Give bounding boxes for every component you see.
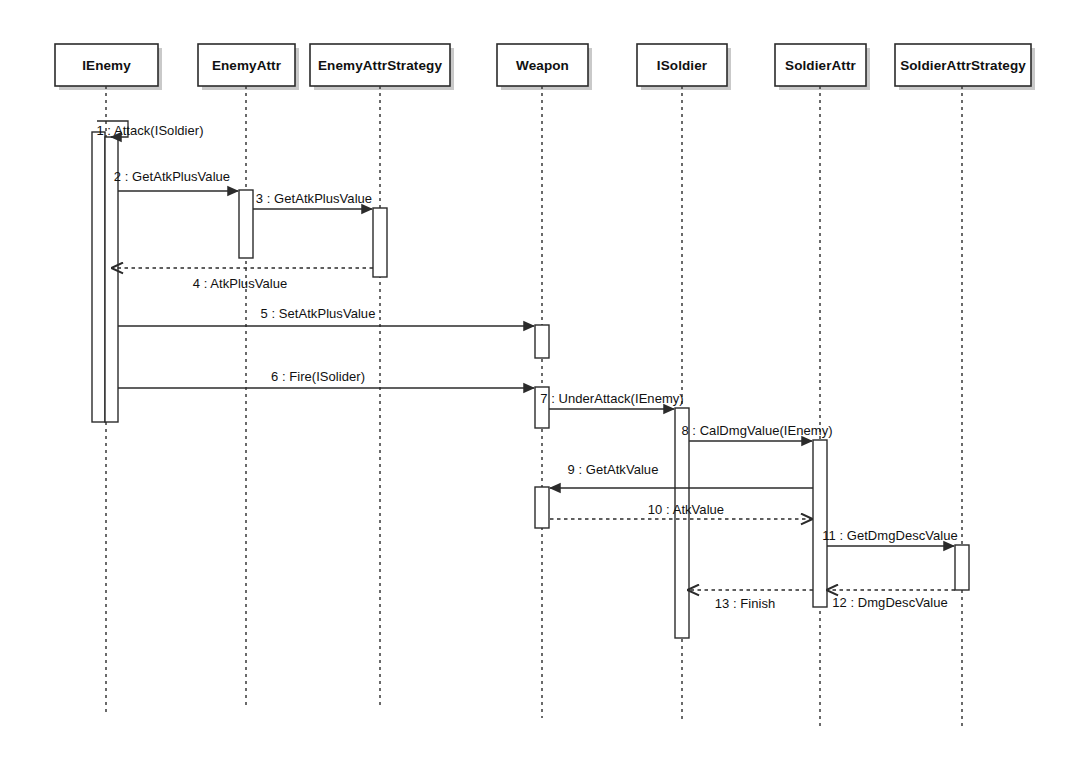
sequence-diagram-svg: IEnemyEnemyAttrEnemyAttrStrategyWeaponIS… — [0, 0, 1090, 766]
message-13[interactable]: 13 : Finish — [688, 590, 813, 611]
message-1[interactable]: 1 : Attack(ISoldier) — [96, 121, 203, 138]
lifeline-soldierattr: SoldierAttr — [775, 44, 870, 726]
lifeline-label: Weapon — [516, 58, 569, 73]
message-3[interactable]: 3 : GetAtkPlusValue — [253, 191, 372, 209]
lifeline-weapon: Weapon — [497, 44, 592, 718]
message-label: 4 : AtkPlusValue — [193, 276, 288, 291]
lifeline-label: EnemyAttrStrategy — [318, 58, 442, 73]
message-7[interactable]: 7 : UnderAttack(IEnemy) — [540, 391, 683, 409]
message-4[interactable]: 4 : AtkPlusValue — [112, 268, 373, 291]
message-label: 3 : GetAtkPlusValue — [256, 191, 372, 206]
lifeline-label: SoldierAttr — [785, 58, 857, 73]
lifeline-label: ISoldier — [657, 58, 708, 73]
message-2[interactable]: 2 : GetAtkPlusValue — [114, 169, 238, 191]
activation-bar-weapon[interactable] — [535, 325, 549, 358]
message-label: 1 : Attack(ISoldier) — [96, 123, 203, 138]
messages-layer: 1 : Attack(ISoldier)2 : GetAtkPlusValue3… — [96, 121, 957, 611]
message-label: 5 : SetAtkPlusValue — [261, 306, 376, 321]
message-label: 11 : GetDmgDescValue — [822, 528, 958, 543]
lifeline-label: SoldierAttrStrategy — [900, 58, 1026, 73]
activation-bar-soldierattr[interactable] — [813, 440, 827, 607]
lifeline-soldierattrstrategy: SoldierAttrStrategy — [895, 44, 1035, 730]
activation-bar-weapon[interactable] — [535, 487, 549, 528]
sequence-diagram-canvas: IEnemyEnemyAttrEnemyAttrStrategyWeaponIS… — [0, 0, 1090, 766]
activation-bar-soldierattrstrategy[interactable] — [955, 545, 969, 590]
message-10[interactable]: 10 : AtkValue — [550, 502, 812, 519]
message-label: 10 : AtkValue — [648, 502, 724, 517]
message-label: 13 : Finish — [715, 596, 776, 611]
message-11[interactable]: 11 : GetDmgDescValue — [822, 528, 958, 546]
activation-bar-ienemy[interactable] — [92, 132, 105, 422]
message-label: 2 : GetAtkPlusValue — [114, 169, 230, 184]
message-6[interactable]: 6 : Fire(ISolider) — [118, 369, 534, 388]
message-label: 9 : GetAtkValue — [568, 462, 659, 477]
message-label: 8 : CalDmgValue(IEnemy) — [681, 423, 832, 438]
lifeline-label: EnemyAttr — [212, 58, 282, 73]
message-label: 7 : UnderAttack(IEnemy) — [540, 391, 683, 406]
lifeline-label: IEnemy — [82, 58, 131, 73]
activation-bar-enemyattr[interactable] — [239, 190, 253, 258]
message-8[interactable]: 8 : CalDmgValue(IEnemy) — [681, 423, 832, 441]
message-5[interactable]: 5 : SetAtkPlusValue — [118, 306, 534, 326]
message-label: 6 : Fire(ISolider) — [271, 369, 365, 384]
activation-bar-enemyattrstrategy[interactable] — [373, 208, 387, 277]
message-label: 12 : DmgDescValue — [832, 595, 948, 610]
message-12[interactable]: 12 : DmgDescValue — [827, 590, 955, 610]
activations-layer — [92, 132, 969, 638]
activation-bar-isoldier[interactable] — [675, 408, 689, 638]
